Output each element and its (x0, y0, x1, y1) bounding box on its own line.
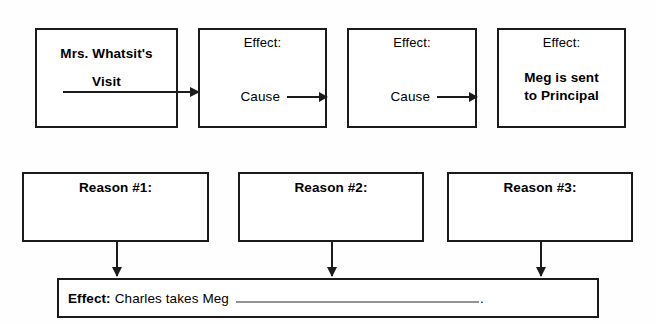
chain-box-2-cause-group: Cause (240, 89, 327, 104)
connector-arrow-box1-to-box2 (63, 91, 199, 93)
arrow-down-icon-reason-2 (331, 242, 333, 276)
reason-box-3-label: Reason #3: (449, 180, 631, 195)
reason-box-1[interactable]: Reason #1: (22, 172, 209, 242)
reason-box-2-label: Reason #2: (240, 180, 422, 195)
chain-box-4-title-line2: to Principal (499, 88, 624, 105)
effect-bar-period: . (480, 291, 484, 306)
effect-bar-blank-input[interactable] (236, 302, 479, 303)
chain-box-1-title-line2: Visit (37, 74, 176, 91)
arrow-down-icon-reason-3 (540, 242, 542, 276)
chain-box-3-cause-label: Cause (390, 89, 430, 104)
chain-box-3-effect-label: Effect: (349, 36, 475, 50)
chain-box-2-effect-label: Effect: (200, 36, 325, 50)
chain-box-mrs-whatsits-visit[interactable]: Mrs. Whatsit's Visit (35, 28, 178, 128)
chain-box-2-cause-label: Cause (240, 89, 280, 104)
chain-box-effect-cause-1[interactable]: Effect: Cause (198, 28, 327, 128)
reason-box-2[interactable]: Reason #2: (238, 172, 424, 242)
chain-box-3-cause-group: Cause (390, 89, 477, 104)
arrow-down-icon-reason-1 (116, 242, 118, 276)
chain-box-4-effect-label: Effect: (499, 36, 624, 50)
chain-box-4-title-line1: Meg is sent (499, 70, 624, 87)
arrow-right-icon (287, 96, 327, 98)
effect-bar-value: Charles takes Meg (115, 291, 229, 306)
worksheet-canvas: Mrs. Whatsit's Visit Effect: Cause Effec… (0, 0, 656, 324)
arrow-right-icon (437, 96, 477, 98)
reason-box-1-label: Reason #1: (24, 180, 207, 195)
reason-box-3[interactable]: Reason #3: (447, 172, 633, 242)
chain-box-meg-is-sent-to-principal[interactable]: Effect: Meg is sent to Principal (497, 28, 626, 128)
effect-bar[interactable]: Effect: Charles takes Meg . (57, 278, 599, 318)
chain-box-effect-cause-2[interactable]: Effect: Cause (347, 28, 477, 128)
chain-box-1-title-line1: Mrs. Whatsit's (37, 46, 176, 63)
effect-bar-content: Effect: Charles takes Meg . (68, 291, 588, 306)
effect-bar-key: Effect: (68, 291, 111, 306)
